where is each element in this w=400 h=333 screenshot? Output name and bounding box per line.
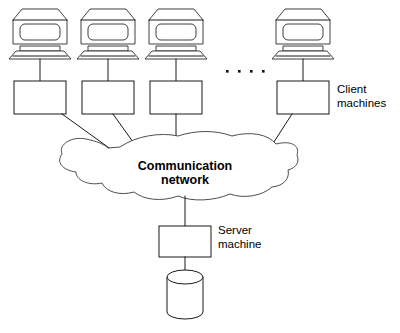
server-label-line-1: Server (218, 224, 252, 236)
desktop-computer-icon (9, 9, 71, 59)
database-cylinder-icon[interactable] (167, 270, 203, 319)
client-box-3[interactable] (150, 81, 202, 114)
client-node-n[interactable] (272, 9, 334, 145)
diagram-canvas: Communication network Client machines Se… (0, 0, 400, 333)
desktop-computer-icon (272, 9, 334, 59)
client-box-n[interactable] (277, 81, 329, 114)
client-node-3[interactable] (145, 9, 207, 136)
link-box2-to-cloud (113, 114, 133, 142)
cloud-label-line-1: Communication (138, 159, 232, 173)
server-box[interactable] (159, 226, 211, 257)
desktop-computer-icon (145, 9, 207, 59)
server-node[interactable] (159, 196, 211, 278)
client-node-2[interactable] (77, 9, 139, 142)
client-box-2[interactable] (82, 81, 134, 114)
client-label-line-2: machines (337, 97, 386, 109)
link-boxn-to-cloud (272, 114, 292, 145)
network-diagram: Communication network Client machines Se… (0, 0, 400, 333)
client-label-line-1: Client (337, 83, 367, 95)
server-label-line-2: machine (218, 238, 261, 250)
client-box-1[interactable] (14, 81, 66, 114)
ellipsis-dots (226, 70, 265, 73)
cloud-label-line-2: network (161, 173, 209, 187)
desktop-computer-icon (77, 9, 139, 59)
